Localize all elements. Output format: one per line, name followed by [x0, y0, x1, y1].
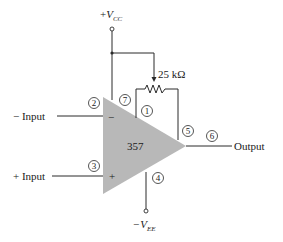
vcc-terminal — [110, 27, 114, 31]
potentiometer-value: 25 kΩ — [158, 68, 185, 80]
wiper-arrow-icon — [152, 77, 157, 82]
pin-7-label: 7 — [123, 95, 128, 105]
opamp-label: 357 — [127, 140, 144, 152]
vee-terminal — [144, 209, 148, 213]
pin-4-label: 4 — [156, 173, 161, 183]
inverting-sign: − — [108, 111, 114, 123]
vee-label: −VEE — [133, 218, 156, 233]
pin-6-label: 6 — [210, 131, 215, 141]
pin-1-label: 1 — [145, 106, 150, 116]
vee-sign: − — [133, 218, 139, 230]
inverting-input-label: − Input — [13, 110, 45, 122]
pin-3-label: 3 — [92, 161, 97, 171]
svg-text:+VCC: +VCC — [100, 8, 123, 23]
wiper-wire — [112, 53, 154, 80]
opamp-diagram: 357 − + +VCC 25 kΩ 7 1 5 − Input 2 + Inp… — [0, 0, 283, 242]
vee-subscript: EE — [146, 225, 156, 233]
output-label: Output — [234, 140, 265, 152]
vcc-subscript: CC — [113, 15, 123, 23]
pin-5-label: 5 — [186, 126, 191, 136]
vcc-label: +VCC — [100, 8, 123, 23]
pin-2-label: 2 — [92, 98, 97, 108]
noninverting-input-label: + Input — [13, 170, 45, 182]
noninverting-sign: + — [109, 170, 115, 182]
svg-text:−VEE: −VEE — [133, 218, 156, 233]
